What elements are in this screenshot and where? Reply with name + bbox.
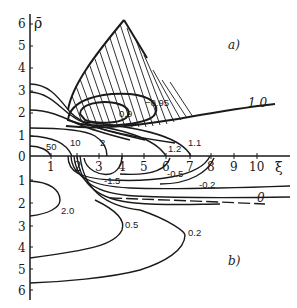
x-tick-9: 9 — [230, 160, 238, 174]
contour-0.2 — [30, 210, 185, 283]
label-0.5: 0.5 — [125, 219, 138, 230]
y-tick-upper-5: 5 — [18, 39, 26, 53]
y-tick-lower-4: 4 — [18, 241, 26, 255]
y-tick-lower-6: 6 — [18, 284, 26, 298]
label-minus-0.5: -0.5 — [167, 168, 183, 179]
y-tick-upper-3: 3 — [18, 84, 26, 98]
label-minus-0.2: -0.2 — [199, 179, 215, 190]
y-tick-upper-1: 1 — [18, 129, 26, 143]
x-tick-10: 10 — [249, 160, 264, 174]
contour-minus-1.5 — [84, 156, 122, 174]
label-1.1: 1.1 — [188, 137, 201, 148]
label-50: 50 — [46, 141, 57, 152]
panel-a-label: a) — [228, 38, 240, 52]
label-0.2: 0.2 — [188, 227, 201, 238]
x-axis-label: ξ — [275, 159, 283, 175]
y-tick-lower-3: 3 — [18, 220, 26, 234]
label-1.2: 1.2 — [168, 143, 181, 154]
y-tick-upper-4: 4 — [18, 61, 26, 75]
label-10: 10 — [70, 137, 81, 148]
y-tick-upper-2: 2 — [18, 106, 26, 120]
contour-2.0 — [30, 181, 60, 216]
panel-b-label: b) — [228, 254, 241, 268]
axes: 6 5 4 3 2 1 0 1 2 3 4 5 6 1 2 3 4 5 6 7 … — [18, 14, 290, 300]
contour-0.5 — [30, 200, 123, 258]
x-tick-5: 5 — [140, 160, 148, 174]
label-0.9: 0.9 — [119, 108, 132, 119]
contour-diagram: 6 5 4 3 2 1 0 1 2 3 4 5 6 1 2 3 4 5 6 7 … — [0, 0, 297, 308]
label-minus-0.95: −0.95 — [145, 97, 169, 108]
y-tick-upper-6: 6 — [18, 17, 26, 31]
x-tick-1: 1 — [47, 160, 55, 174]
y-tick-lower-1: 1 — [18, 174, 26, 188]
label-2: 2 — [100, 137, 105, 148]
label-2.0: 2.0 — [61, 205, 74, 216]
y-tick-lower-5: 5 — [18, 263, 26, 277]
y-tick-lower-2: 2 — [18, 197, 26, 211]
panel-b: -1.5 -0.5 -0.2 0 2.0 0.5 0.2 b) — [30, 156, 290, 283]
contour-2 — [30, 128, 107, 156]
y-axis-label: ρ̄ — [34, 15, 42, 31]
y-tick-zero: 0 — [18, 150, 26, 164]
label-minus-1.5: -1.5 — [104, 175, 120, 186]
label-0: 0 — [257, 191, 265, 205]
label-1.0: 1.0 — [248, 96, 267, 110]
panel-a: 50 10 2 1.2 1.1 0.9 −0.95 1.0 a) — [30, 20, 275, 156]
